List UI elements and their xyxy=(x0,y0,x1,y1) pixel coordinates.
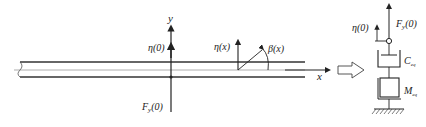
x-axis: x xyxy=(285,70,328,82)
y-axis: y η(0) Fy(0) xyxy=(141,12,173,114)
model-eta0-label: η(0) xyxy=(352,22,369,34)
ground-hatch-icon xyxy=(372,109,404,114)
equivalent-model: η(0) Fy(0) Ceq Meq xyxy=(352,6,418,114)
force-label: Fy(0) xyxy=(141,101,164,114)
x-axis-label: x xyxy=(316,70,322,82)
y-axis-label: y xyxy=(167,12,173,24)
beam xyxy=(14,62,305,77)
model-force-label: Fy(0) xyxy=(395,18,418,31)
etax-label: η(x) xyxy=(214,41,231,53)
equivalence-arrow-icon xyxy=(338,62,364,78)
beam-section-annotation: η(x) β(x) xyxy=(214,41,285,70)
eta0-label: η(0) xyxy=(148,42,165,54)
beta-label: β(x) xyxy=(267,43,285,55)
mass-label: Meq xyxy=(403,85,418,97)
diagram-canvas: y η(0) Fy(0) x η(x) β(x) η(0) Fy(0) Ceq xyxy=(0,0,426,127)
damper-label: Ceq xyxy=(404,55,416,67)
